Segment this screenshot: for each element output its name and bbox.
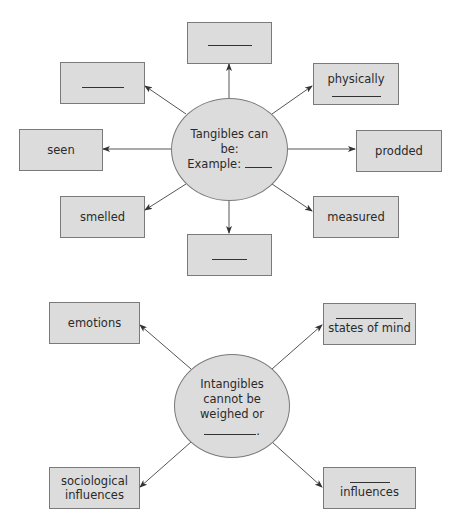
center-text-line4: .: [204, 424, 260, 439]
center-text-line3: Example:: [187, 157, 271, 172]
fill-in-blank: [212, 259, 247, 260]
tangibles-center-circle: Tangibles can be: Example:: [171, 98, 288, 201]
center-text-line1: Tangibles can: [191, 127, 269, 142]
node-label: smelled: [80, 210, 125, 224]
example-blank: [245, 157, 272, 168]
node-prodded: prodded: [356, 130, 442, 172]
node-top-blank: [187, 22, 272, 64]
weighed-or-blank: [204, 424, 256, 435]
arrow-upper-left: [145, 86, 186, 114]
node-sociological-influences: sociological influences: [49, 467, 140, 509]
node-label: measured: [327, 210, 384, 224]
node-label: seen: [47, 143, 74, 157]
fill-in-blank: [82, 87, 124, 88]
node-label: physically: [327, 72, 384, 86]
arrow-upper-right: [272, 86, 312, 114]
arrow-lower-left: [145, 184, 186, 210]
node-physically: physically: [313, 63, 399, 105]
center-text-line2: cannot be: [203, 392, 261, 407]
fill-in-blank: [332, 96, 381, 97]
node-label-line2: influences: [65, 488, 124, 502]
fill-in-blank: [350, 482, 390, 483]
node-label: states of mind: [328, 321, 411, 335]
node-label-line1: sociological: [61, 474, 128, 488]
arrow-lower-right: [272, 184, 312, 211]
node-label: prodded: [375, 144, 423, 158]
center-text-line2: be:: [220, 142, 238, 157]
node-label: emotions: [68, 316, 121, 330]
node-label: influences: [340, 485, 399, 499]
node-bottom-blank: [187, 234, 272, 276]
intangibles-center-circle: Intangibles cannot be weighed or .: [174, 354, 290, 458]
node-measured: measured: [313, 196, 399, 238]
node-upper-left-blank: [60, 62, 145, 104]
node-smelled: smelled: [60, 196, 145, 238]
node-states-of-mind: states of mind: [323, 303, 416, 345]
fill-in-blank: [208, 45, 252, 46]
node-influences: influences: [323, 467, 416, 509]
node-seen: seen: [19, 129, 103, 171]
center-text-line1: Intangibles: [200, 377, 264, 392]
center-text-line3: weighed or: [200, 407, 264, 422]
node-emotions: emotions: [49, 302, 140, 344]
fill-in-blank: [336, 318, 403, 319]
